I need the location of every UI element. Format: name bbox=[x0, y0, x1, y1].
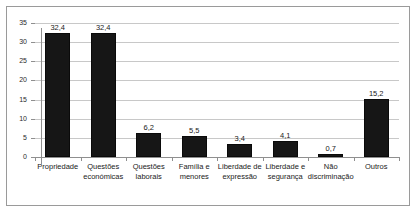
bar[interactable] bbox=[273, 141, 298, 157]
y-tick-label-20: 20 bbox=[5, 76, 27, 83]
bar[interactable] bbox=[45, 33, 70, 157]
bar-value-label: 6,2 bbox=[129, 124, 169, 132]
chart-frame: 05101520253035 32,432,46,25,53,44,10,715… bbox=[6, 6, 410, 206]
bar-value-label: 4,1 bbox=[265, 132, 305, 140]
y-tick-label-5: 5 bbox=[5, 134, 27, 141]
x-tick-mark-1 bbox=[81, 157, 82, 161]
y-tick-label-15: 15 bbox=[5, 96, 27, 103]
x-tick-mark-3 bbox=[172, 157, 173, 161]
bar[interactable] bbox=[91, 33, 116, 157]
category-label-line1: Outros bbox=[365, 162, 388, 171]
bar[interactable] bbox=[136, 133, 161, 157]
plot-area bbox=[35, 23, 399, 157]
bar[interactable] bbox=[364, 99, 389, 157]
y-tick-label-25: 25 bbox=[5, 57, 27, 64]
y-tick-label-30: 30 bbox=[5, 38, 27, 45]
x-tick-mark-2 bbox=[126, 157, 127, 161]
bar[interactable] bbox=[318, 154, 343, 157]
y-tick-label-10: 10 bbox=[5, 115, 27, 122]
bar-value-label: 15,2 bbox=[356, 90, 396, 98]
bar-value-label: 0,7 bbox=[311, 145, 351, 153]
x-tick-mark-8 bbox=[399, 157, 400, 161]
x-tick-mark-4 bbox=[217, 157, 218, 161]
y-tick-label-35: 35 bbox=[5, 19, 27, 26]
category-label-line2: discriminação bbox=[296, 172, 366, 182]
bar-value-label: 32,4 bbox=[83, 24, 123, 32]
bar-value-label: 3,4 bbox=[220, 135, 260, 143]
bar-value-label: 5,5 bbox=[174, 127, 214, 135]
category-label: Outros bbox=[341, 162, 411, 172]
x-tick-mark-5 bbox=[263, 157, 264, 161]
bar-value-label: 32,4 bbox=[38, 24, 78, 32]
category-label-line1: Não bbox=[324, 162, 338, 171]
y-tick-label-0: 0 bbox=[5, 153, 27, 160]
bar[interactable] bbox=[182, 136, 207, 157]
x-tick-mark-0 bbox=[35, 157, 36, 161]
x-tick-mark-7 bbox=[354, 157, 355, 161]
bar[interactable] bbox=[227, 144, 252, 157]
x-tick-mark-6 bbox=[308, 157, 309, 161]
